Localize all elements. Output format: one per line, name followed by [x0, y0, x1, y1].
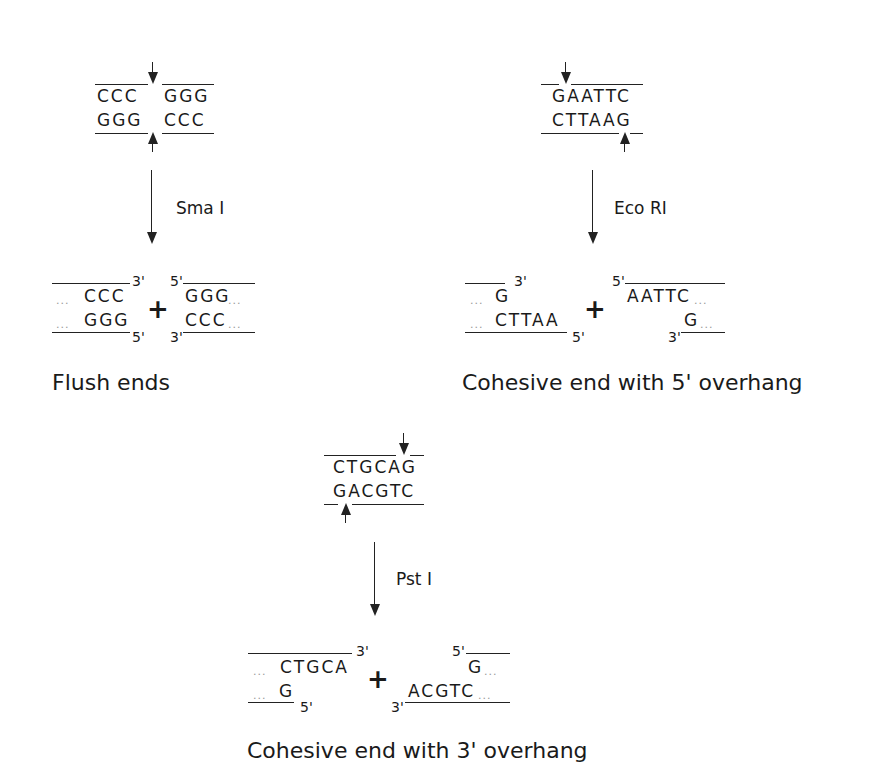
- enzyme-label: Pst I: [396, 569, 432, 589]
- enzyme-label: Eco RI: [614, 198, 667, 218]
- reaction-arrow-icon: [147, 232, 157, 244]
- bottom-strand-line-left: [541, 133, 619, 134]
- cut-arrow-up-icon: [341, 503, 351, 515]
- product-left-bottom-line: [52, 332, 130, 333]
- product-left-top-seq: CTGCA: [280, 659, 349, 676]
- product-left-bottom-line: [248, 702, 294, 703]
- site-top: GAATTC: [552, 88, 631, 105]
- dots: ...: [228, 294, 242, 307]
- five-prime-label: 5': [300, 700, 313, 714]
- top-strand-line-left: [324, 455, 396, 456]
- cut-arrow-up-icon: [620, 132, 630, 144]
- dots: ...: [484, 665, 498, 678]
- product-left-bottom-line: [465, 332, 567, 333]
- dots: ...: [694, 294, 708, 307]
- product-right-bottom-seq: CCC: [185, 312, 227, 329]
- product-right-bottom-seq: ACGTC: [408, 683, 475, 700]
- reaction-arrow-icon: [370, 604, 380, 616]
- caption: Cohesive end with 5' overhang: [462, 370, 803, 395]
- cut-arrow-down-icon: [561, 72, 571, 84]
- three-prime-label: 3': [514, 274, 527, 288]
- site-bottom: GACGTC: [333, 483, 415, 500]
- product-right-bottom-line: [405, 702, 510, 703]
- product-left-bottom-seq: G: [279, 683, 294, 700]
- product-right-top-seq: GGG: [185, 288, 231, 305]
- dots: ...: [56, 294, 70, 307]
- five-prime-label: 5': [572, 330, 585, 344]
- top-strand-line-right: [571, 84, 643, 85]
- five-prime-label: 5': [170, 274, 183, 288]
- enzyme-label: Sma I: [176, 198, 224, 218]
- bottom-strand-line-left: [324, 504, 338, 505]
- plus-sign: +: [147, 296, 169, 322]
- cut-arrow-up-icon: [148, 132, 158, 144]
- reaction-arrow-shaft: [151, 170, 152, 232]
- bottom-strand-line-right: [162, 133, 214, 134]
- dots: ...: [470, 318, 484, 331]
- three-prime-label: 3': [668, 330, 681, 344]
- site-top: CTGCAG: [333, 459, 417, 476]
- product-right-bottom-line: [183, 332, 255, 333]
- three-prime-label: 3': [132, 274, 145, 288]
- product-right-top-seq: AATTC: [627, 288, 691, 305]
- five-prime-label: 5': [612, 274, 625, 288]
- cut-arrow-bottom-shaft: [345, 514, 346, 523]
- five-prime-label: 5': [452, 644, 465, 658]
- cut-arrow-down-icon: [399, 443, 409, 455]
- bottom-strand-line-right: [630, 133, 643, 134]
- top-strand-line-left: [541, 84, 559, 85]
- dots: ...: [56, 318, 70, 331]
- site-bottom: CTTAAG: [552, 112, 632, 129]
- product-right-top-line: [466, 653, 510, 654]
- bottom-strand-line-left: [95, 133, 148, 134]
- site-top-left: CCC: [97, 88, 139, 105]
- top-strand-line-right: [162, 84, 214, 85]
- product-right-top-seq: G: [468, 659, 483, 676]
- cut-arrow-bottom-shaft: [624, 143, 625, 152]
- product-right-bottom-line: [681, 332, 725, 333]
- site-bottom-left: GGG: [97, 112, 143, 129]
- product-right-bottom-seq: G: [684, 312, 699, 329]
- dots: ...: [700, 318, 714, 331]
- caption: Cohesive end with 3' overhang: [247, 738, 588, 763]
- product-left-top-line: [52, 283, 130, 284]
- dots: ...: [253, 689, 267, 702]
- product-left-top-seq: CCC: [84, 288, 126, 305]
- top-strand-line-left: [95, 84, 148, 85]
- product-right-top-line: [625, 283, 725, 284]
- bottom-strand-line-right: [352, 504, 424, 505]
- product-left-bottom-seq: CTTAA: [495, 312, 560, 329]
- dots: ...: [478, 689, 492, 702]
- product-left-bottom-seq: GGG: [84, 312, 130, 329]
- reaction-arrow-shaft: [592, 170, 593, 232]
- reaction-arrow-icon: [588, 232, 598, 244]
- cut-arrow-down-icon: [148, 72, 158, 84]
- five-prime-label: 5': [132, 330, 145, 344]
- three-prime-label: 3': [170, 330, 183, 344]
- reaction-arrow-shaft: [374, 542, 375, 604]
- three-prime-label: 3': [391, 700, 404, 714]
- dots: ...: [470, 294, 484, 307]
- cut-arrow-bottom-shaft: [152, 143, 153, 152]
- caption: Flush ends: [52, 370, 170, 395]
- top-strand-line-right: [410, 455, 424, 456]
- three-prime-label: 3': [356, 644, 369, 658]
- dots: ...: [228, 318, 242, 331]
- product-left-top-line: [465, 283, 505, 284]
- plus-sign: +: [367, 666, 389, 692]
- product-right-top-line: [183, 283, 255, 284]
- dots: ...: [253, 665, 267, 678]
- product-left-top-line: [248, 653, 352, 654]
- product-left-top-seq: G: [495, 288, 510, 305]
- site-top-right: GGG: [164, 88, 210, 105]
- plus-sign: +: [584, 296, 606, 322]
- site-bottom-right: CCC: [164, 112, 206, 129]
